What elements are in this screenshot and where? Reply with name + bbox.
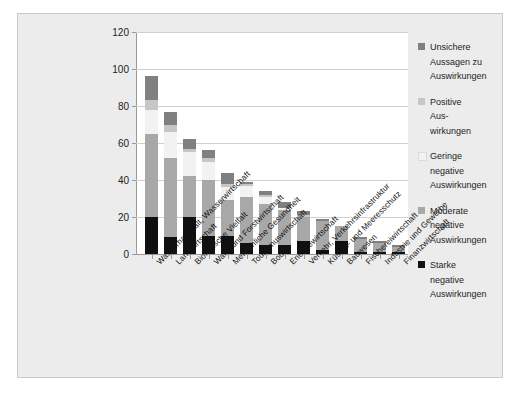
bar-segment — [164, 112, 177, 125]
legend-item-3[interactable]: GeringenegativeAuswirkungen — [418, 149, 504, 193]
legend-label-line: Auswirkungen — [430, 287, 504, 302]
legend-label-line: Aus- — [430, 109, 504, 124]
bar-segment — [145, 76, 158, 100]
legend-label-line: negative — [430, 273, 504, 288]
legend-swatch-icon — [418, 98, 425, 105]
bar-segment — [183, 176, 196, 217]
legend-label-line: Starke — [430, 258, 504, 273]
y-tick-mark — [132, 254, 136, 255]
legend-label-line: Geringe — [430, 149, 504, 164]
legend-swatch-icon — [418, 152, 427, 161]
bar-segment — [164, 132, 177, 158]
bar-segment — [240, 186, 253, 197]
bar-segment — [145, 100, 158, 109]
bar-segment — [145, 217, 158, 254]
y-tick-mark — [132, 106, 136, 107]
bar-segment — [202, 162, 215, 181]
x-tick-mark — [152, 255, 153, 259]
y-tick-mark — [132, 217, 136, 218]
legend-swatch-icon — [418, 261, 425, 268]
legend-item-2[interactable]: PositiveAus-wirkungen — [418, 95, 504, 139]
y-tick-mark — [132, 69, 136, 70]
y-tick-label: 60 — [118, 138, 129, 149]
bar-segment — [202, 150, 215, 157]
y-tick-label: 0 — [123, 249, 129, 260]
y-tick-mark — [132, 180, 136, 181]
chart-legend: UnsichereAussagen zuAuswirkungenPositive… — [418, 40, 504, 313]
legend-label-line: Unsichere — [430, 40, 504, 55]
bar-segment — [183, 139, 196, 148]
gridline — [136, 106, 408, 107]
legend-swatch-icon — [418, 43, 425, 50]
bar-segment — [164, 125, 177, 132]
bar-segment — [145, 110, 158, 134]
y-tick-label: 100 — [112, 64, 129, 75]
legend-label-line: Aussagen zu — [430, 55, 504, 70]
legend-label-line: Auswirkungen — [430, 69, 504, 84]
bar-segment — [183, 152, 196, 176]
bar-segment — [164, 158, 177, 238]
legend-item-5[interactable]: StarkenegativeAuswirkungen — [418, 258, 504, 302]
legend-swatch-icon — [418, 207, 425, 214]
y-tick-label: 20 — [118, 212, 129, 223]
chart-panel: 020406080100120 Wasserhaushalt, Wasserwi… — [17, 13, 503, 378]
legend-label-line: Auswirkungen — [430, 233, 504, 248]
bar-segment — [145, 134, 158, 217]
gridline — [136, 32, 408, 33]
y-tick-label: 120 — [112, 27, 129, 38]
y-tick-label: 40 — [118, 175, 129, 186]
legend-label-line: negative — [430, 218, 504, 233]
legend-item-1[interactable]: UnsichereAussagen zuAuswirkungen — [418, 40, 504, 84]
legend-item-4[interactable]: ModeratenegativeAuswirkungen — [418, 204, 504, 248]
legend-label-line: Moderate — [430, 204, 504, 219]
legend-label-line: Auswirkungen — [430, 178, 504, 193]
legend-label-line: negative — [430, 164, 504, 179]
gridline — [136, 69, 408, 70]
y-tick-label: 80 — [118, 101, 129, 112]
y-tick-mark — [132, 32, 136, 33]
bar-1[interactable] — [145, 76, 158, 254]
legend-label-line: wirkungen — [430, 124, 504, 139]
bar-2[interactable] — [164, 112, 177, 254]
y-tick-mark — [132, 143, 136, 144]
legend-label-line: Positive — [430, 95, 504, 110]
